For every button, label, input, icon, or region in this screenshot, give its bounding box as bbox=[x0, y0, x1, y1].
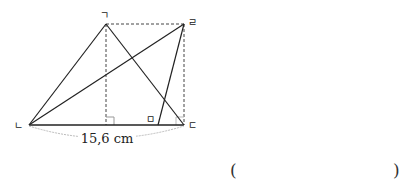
measurement-label: 15,6 cm bbox=[81, 131, 134, 146]
segment-r-m bbox=[158, 24, 184, 125]
vertex-label-m: ㅁ bbox=[146, 114, 155, 125]
answer-blank[interactable] bbox=[244, 160, 392, 182]
vertex-label-g: ㄱ bbox=[100, 10, 109, 21]
answer-close-paren: ) bbox=[393, 160, 400, 180]
segment-n-g bbox=[29, 24, 106, 125]
vertex-label-r: ㄹ bbox=[188, 17, 197, 28]
vertex-label-n: ㄴ bbox=[14, 120, 23, 131]
segment-g-d bbox=[106, 24, 184, 125]
vertex-label-d: ㄷ bbox=[188, 120, 197, 131]
right-angle-marker-altitude bbox=[106, 117, 114, 125]
answer-open-paren: ( bbox=[230, 160, 237, 180]
